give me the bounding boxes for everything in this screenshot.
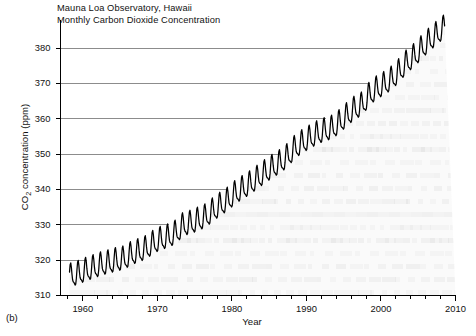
bleed-block [270,43,279,48]
bleed-block [380,43,389,48]
bleed-block [190,43,196,48]
bleed-block [120,225,128,230]
bleed-block [82,199,92,204]
bleed-block [180,43,187,48]
bleed-block [140,225,146,230]
bleed-block [136,212,147,217]
bleed-block [166,108,180,113]
bleed-block [133,238,145,243]
bleed-block [400,43,407,48]
bleed-block [178,147,188,152]
bleed-block [232,147,241,152]
bleed-block [250,147,255,152]
bleed-block [124,56,132,61]
bleed-block [268,121,276,126]
bleed-block [268,56,277,61]
bleed-block [169,212,180,217]
x-tick-label-1960: 1960 [63,303,103,314]
bleed-block [169,121,177,126]
bleed-block [126,82,140,87]
plot-area [0,0,476,336]
bleed-block [200,186,205,191]
bleed-block [70,186,77,191]
bleed-block [142,108,154,113]
bleed-block [70,147,82,152]
bleed-block [100,225,110,230]
bleed-block [110,43,124,48]
bleed-block [202,121,210,126]
bleed-block [118,108,128,113]
bleed-block [140,173,149,178]
bleed-block [310,43,315,48]
bleed-block [97,56,111,61]
bleed-block [180,30,185,35]
bleed-block [160,56,171,61]
bleed-block [122,95,134,100]
bleed-block [174,186,186,191]
bleed-block [118,199,131,204]
bleed-block [317,95,326,100]
bleed-block [389,30,394,35]
bleed-block [98,82,106,87]
bleed-block [196,56,210,61]
bleed-block [70,199,79,204]
bleed-block [331,56,337,61]
y-tick-label-370: 370 [21,77,51,88]
bleed-block [88,238,99,243]
bleed-block [191,121,199,126]
bleed-block [191,30,196,35]
bleed-block [313,56,323,61]
bleed-block [220,43,234,48]
bleed-block [160,147,174,152]
bleed-block [82,108,89,113]
x-tick-label-2000: 2000 [361,303,401,314]
bleed-block [110,134,116,139]
bleed-block [295,56,309,61]
bleed-block [280,43,288,48]
bleed-block [213,186,220,191]
bleed-block [257,121,265,126]
bleed-block [250,134,264,139]
bleed-block [213,121,221,126]
bleed-block [330,43,344,48]
y-tick-label-380: 380 [21,42,51,53]
bleed-block [205,69,219,74]
bleed-block [385,56,390,61]
bleed-block [148,95,153,100]
bleed-block [226,95,232,100]
bleed-block [106,56,118,61]
bleed-block [109,186,122,191]
bleed-block [178,56,185,61]
bleed-block [235,121,243,126]
bleed-block [133,56,139,61]
bleed-block [457,147,471,152]
bleed-block [98,173,109,178]
bleed-block [411,30,416,35]
bleed-block [312,30,317,35]
bleed-block [257,30,262,35]
bleed-block [97,238,106,243]
bleed-block [166,199,172,204]
bleed-block [182,173,189,178]
bleed-block [190,69,200,74]
bleed-block [310,69,319,74]
bleed-block [83,95,89,100]
bleed-block [81,121,89,126]
bleed-block [70,69,81,74]
bleed-block [235,69,246,74]
bleed-block [70,82,83,87]
bleed-block [310,108,314,113]
bleed-block [187,95,198,100]
bleed-block [142,147,149,152]
bleed-block [80,134,89,139]
bleed-block [178,108,182,113]
bleed-block [323,30,328,35]
bleed-block [103,30,108,35]
bleed-block [308,82,317,87]
bleed-block [96,186,107,191]
bleed-block [88,56,93,61]
bleed-block [106,199,118,204]
bleed-block [150,225,155,230]
bleed-block [196,173,206,178]
bleed-block [142,238,152,243]
